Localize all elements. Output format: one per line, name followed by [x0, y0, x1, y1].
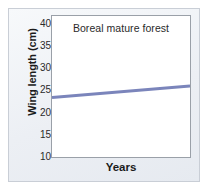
y-tick-label: 35 [30, 41, 51, 51]
series-group [52, 86, 190, 97]
figure-inner: Wing length (cm) 40353025201510 Boreal m… [9, 9, 199, 181]
y-tick-label: 15 [30, 130, 51, 140]
plot-area: Boreal mature forest [51, 15, 191, 158]
figure-panel: Wing length (cm) 40353025201510 Boreal m… [8, 8, 200, 182]
series-line [52, 86, 190, 97]
x-axis-title: Years [51, 161, 191, 173]
y-tick-label: 30 [30, 63, 51, 73]
y-tick-label: 40 [30, 19, 51, 29]
y-tick-label: 20 [30, 108, 51, 118]
y-tick-label: 25 [30, 85, 51, 95]
series-line-chart [52, 16, 190, 157]
y-axis-tick-labels: 40353025201510 [30, 15, 51, 157]
y-tick-label: 10 [30, 152, 51, 162]
